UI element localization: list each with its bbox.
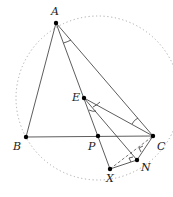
segment-BC xyxy=(26,136,153,137)
segment-EC xyxy=(84,98,153,136)
segment-AX xyxy=(56,23,110,169)
point-B xyxy=(24,135,28,139)
point-X xyxy=(108,167,112,171)
geometry-diagram: A B C P E X N xyxy=(0,0,173,197)
point-A xyxy=(54,21,58,25)
label-A: A xyxy=(50,5,59,18)
label-E: E xyxy=(71,91,80,104)
point-E xyxy=(82,96,86,100)
label-C: C xyxy=(157,140,166,153)
angle-mark-C xyxy=(132,118,138,124)
label-X: X xyxy=(105,172,115,185)
point-C xyxy=(151,134,155,138)
label-P: P xyxy=(87,140,96,153)
segment-AB xyxy=(26,23,56,137)
label-B: B xyxy=(12,140,21,153)
circumcircle xyxy=(16,16,173,180)
segment-XN xyxy=(110,160,137,169)
point-N xyxy=(135,158,139,162)
angle-mark-A xyxy=(64,40,72,43)
point-P xyxy=(96,134,100,138)
right-angle-mark-C xyxy=(139,146,143,152)
label-N: N xyxy=(140,161,151,174)
